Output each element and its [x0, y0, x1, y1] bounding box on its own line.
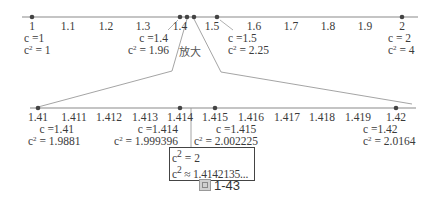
- annotation-c2-1-4: c2 = 1.96: [128, 44, 169, 56]
- tick-label: 1.412: [96, 111, 122, 123]
- tick-label: 1.4: [173, 20, 187, 32]
- point-1-41-zoomed: [36, 106, 41, 111]
- point-2: [400, 15, 405, 20]
- c-value: c = 2: [388, 32, 415, 44]
- c-value: c =1.5: [228, 32, 269, 44]
- figure-mark-icon: [199, 179, 211, 191]
- zoom-line-right: [194, 19, 412, 104]
- point-1-5: [215, 15, 220, 20]
- c-value: c =1.414: [108, 123, 178, 135]
- tick-label: 1.7: [284, 20, 298, 32]
- tick-label: 1.42: [386, 111, 406, 123]
- leader-1-5: [220, 20, 233, 30]
- annotation-c-1-4: c =1.4: [128, 32, 168, 44]
- tick-label: 1.9: [358, 20, 372, 32]
- tick-label: 1.415: [202, 111, 228, 123]
- annotation-c-1: c =1 c2 = 1: [24, 32, 51, 56]
- tick-label: 1.5: [205, 20, 219, 32]
- tick-label: 1.413: [132, 111, 158, 123]
- tick-label: 1.416: [238, 111, 264, 123]
- c-squared-equals-2: c2 = 2: [172, 148, 252, 164]
- c-squared-value: c2 = 2.002225: [194, 135, 258, 147]
- tick-label: 1.3: [136, 20, 150, 32]
- c-squared-value: c2 = 1.9881: [28, 135, 74, 147]
- c-squared-value: c2 = 2.0164: [363, 135, 415, 147]
- c-squared-value: c2 = 4: [388, 44, 415, 56]
- c-squared-value: c2 = 1.999396: [108, 135, 178, 147]
- c-squared-value: c2 = 1: [24, 44, 51, 56]
- tick-label: 1.41: [28, 111, 48, 123]
- c-value: c =1: [24, 32, 51, 44]
- annotation-c-1-42: c =1.42 c2 = 2.0164: [363, 123, 415, 147]
- annotation-c-1-5: c =1.5 c2 = 2.25: [228, 32, 269, 56]
- tick-label: 2: [399, 20, 405, 32]
- tick-label: 1.414: [167, 111, 193, 123]
- tick-label: 1.8: [321, 20, 335, 32]
- point-1-4: [178, 15, 183, 20]
- tick-label: 1.6: [247, 20, 261, 32]
- tick-label: 1.1: [61, 20, 75, 32]
- point-1: [30, 15, 35, 20]
- point-1-415: [213, 106, 218, 111]
- c-squared-value: c2 = 2.25: [228, 44, 269, 56]
- c-value: c =1.4: [128, 32, 168, 44]
- tick-label: 1.417: [274, 111, 300, 123]
- zoom-label: 放大: [179, 47, 201, 59]
- c-value: c =1.42: [363, 123, 415, 135]
- annotation-c-1-41: c =1.41 c2 = 1.9881: [28, 123, 74, 147]
- annotation-c-1-415: c =1.415 c2 = 2.002225: [194, 123, 258, 147]
- figure-number: 1-43: [214, 178, 240, 193]
- tick-label: 1.419: [345, 111, 371, 123]
- tick-label: 1.411: [61, 111, 86, 123]
- annotation-c-2: c = 2 c2 = 4: [388, 32, 415, 56]
- tick-label: 1: [29, 20, 35, 32]
- tick-label: 1.418: [309, 111, 335, 123]
- sqrt2-result-box: c2 = 2 c2 ≈ 1.4142135...: [169, 147, 255, 181]
- point-1-42-zoomed: [394, 106, 399, 111]
- point-1-414: [178, 106, 183, 111]
- figure-caption: 1-43: [199, 178, 240, 193]
- point-1-41: [185, 15, 190, 20]
- annotation-c-1-414: c =1.414 c2 = 1.999396: [108, 123, 178, 147]
- point-1-42: [192, 15, 197, 20]
- tick-label: 1.2: [99, 20, 113, 32]
- c-value: c =1.41: [28, 123, 74, 135]
- c-value: c =1.415: [194, 123, 258, 135]
